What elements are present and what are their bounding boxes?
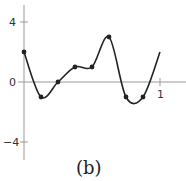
data-point xyxy=(56,80,61,85)
y-tick-label-4: 4 xyxy=(9,16,16,29)
data-points xyxy=(22,35,146,100)
data-point xyxy=(22,50,27,55)
x-tick-label-1: 1 xyxy=(157,88,164,101)
curve xyxy=(24,36,160,103)
data-point xyxy=(124,95,129,100)
data-point xyxy=(141,95,146,100)
chart: 4 0 −4 1 (b) xyxy=(0,0,186,181)
y-tick-label-0: 0 xyxy=(9,76,16,89)
y-tick-label-neg4: −4 xyxy=(3,136,19,149)
data-point xyxy=(107,35,112,40)
data-point xyxy=(73,65,78,70)
caption: (b) xyxy=(76,157,102,178)
data-point xyxy=(39,95,44,100)
data-point xyxy=(90,65,95,70)
